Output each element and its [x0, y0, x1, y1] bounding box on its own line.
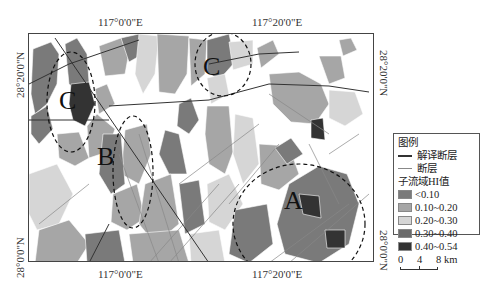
map-canvas [29, 34, 374, 262]
bottom-tick-117-0: 117°0'0"E [98, 268, 143, 280]
legend-hi-title: 子流域HI值 [398, 175, 475, 188]
fault-line-icon [398, 168, 412, 169]
right-tick-28-20: 28°20'0"N [378, 50, 390, 96]
top-tick-117-0: 117°0'0"E [98, 16, 143, 28]
legend-class-2: 0.20~0.30 [398, 214, 475, 227]
swatch-icon [398, 203, 412, 212]
legend-label: 0.40~0.54 [415, 240, 457, 253]
swatch-icon [398, 190, 412, 199]
zone-label-c-west: C [59, 86, 76, 116]
legend-class-1: 0.10~0.20 [398, 201, 475, 214]
legend-label: 0.10~0.20 [415, 201, 457, 214]
scale-bar-mid-tick [419, 266, 420, 270]
scale-label-0: 0 [398, 254, 403, 265]
zone-label-a: A [284, 186, 303, 216]
legend-class-4: 0.40~0.54 [398, 240, 475, 253]
legend-title: 图例 [398, 136, 475, 149]
left-tick-28-0: 28°0'0"N [14, 237, 26, 278]
legend-item-fault: 断层 [398, 162, 475, 175]
top-tick-117-20: 117°20'0"E [252, 16, 302, 28]
scale-label-4: 4 [417, 254, 422, 265]
legend-label: 断层 [417, 162, 437, 175]
left-tick-28-20: 28°20'0"N [14, 52, 26, 98]
legend-label: 解译断层 [417, 149, 457, 162]
legend-label: <0.10 [415, 188, 439, 201]
interpreted-fault-line-icon [398, 155, 412, 157]
bottom-tick-117-20: 117°20'0"E [252, 268, 302, 280]
map-frame: B A C C [28, 33, 374, 262]
legend: 图例 解译断层 断层 子流域HI值 <0.10 0.10~0.20 0.20~0… [393, 133, 480, 235]
zone-label-c-east: C [203, 52, 220, 82]
zone-label-b: B [97, 142, 114, 172]
scale-label-8km: 8 km [436, 254, 457, 265]
swatch-icon [398, 216, 412, 225]
right-tick-28-0: 28°0'0"N [378, 230, 390, 271]
legend-class-0: <0.10 [398, 188, 475, 201]
legend-label: 0.30~0.40 [415, 227, 457, 240]
legend-class-3: 0.30~0.40 [398, 227, 475, 240]
legend-label: 0.20~0.30 [415, 214, 457, 227]
swatch-icon [398, 229, 412, 238]
swatch-icon [398, 242, 412, 251]
legend-item-interpreted-fault: 解译断层 [398, 149, 475, 162]
